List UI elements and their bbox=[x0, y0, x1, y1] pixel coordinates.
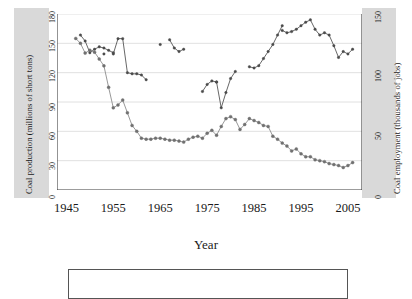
x-axis-tick-label: 1945 bbox=[54, 201, 79, 216]
y-axis-right-tick-label: 100 bbox=[374, 70, 383, 82]
y-axis-left-tick-label: 150 bbox=[48, 40, 57, 52]
gridlines bbox=[57, 14, 362, 161]
y-axis-right-tick-label: 0 bbox=[374, 195, 383, 199]
y-axis-right-tick-label: 50 bbox=[374, 132, 383, 140]
y-axis-right-tick-label: 150 bbox=[374, 11, 383, 23]
y-axis-left-tick-label: 180 bbox=[48, 11, 57, 23]
x-axis-tick-label: 2005 bbox=[335, 201, 360, 216]
x-axis-tick-label: 1965 bbox=[148, 201, 173, 216]
x-axis-tick-label: 1955 bbox=[101, 201, 126, 216]
x-axis-tick-label: 1985 bbox=[242, 201, 267, 216]
x-axis-title: Year bbox=[0, 237, 412, 253]
y-axis-left-tick-label: 30 bbox=[48, 162, 57, 170]
series-coal-employment bbox=[79, 19, 354, 110]
x-axis-tick-label: 1975 bbox=[195, 201, 220, 216]
y-axis-left-title: Coal production (millions of short tons) bbox=[24, 55, 34, 194]
y-axis-left-tick-label: 90 bbox=[48, 103, 57, 111]
chart-canvas bbox=[57, 14, 362, 190]
plot-area bbox=[57, 14, 362, 190]
y-axis-right-title: Coal employment (thousands of jobs) bbox=[392, 63, 402, 194]
x-axis-tick-label: 1995 bbox=[289, 201, 314, 216]
y-axis-left-tick-label: 0 bbox=[48, 195, 57, 199]
y-axis-left-tick-label: 60 bbox=[48, 132, 57, 140]
caption-box bbox=[68, 269, 348, 299]
series-coal-production bbox=[74, 37, 354, 169]
y-axis-left-tick-label: 120 bbox=[48, 70, 57, 82]
right-axis-label-band bbox=[362, 8, 396, 198]
